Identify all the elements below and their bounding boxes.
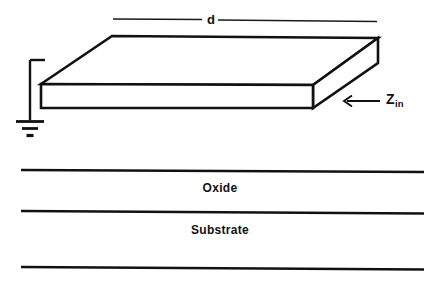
- diagram-canvas: d Zin Oxide Substrate: [0, 0, 440, 283]
- dimension-segment-left: [113, 19, 202, 20]
- impedance-arrow: [344, 96, 380, 107]
- substrate-layer-label: Substrate: [0, 224, 440, 236]
- length-dimension-label: d: [207, 13, 215, 26]
- conductor-slab: [41, 36, 378, 108]
- impedance-subscript: in: [395, 98, 403, 109]
- slab-front-face: [41, 84, 313, 108]
- layer-line-top: [21, 170, 424, 172]
- layer-line-middle: [21, 211, 424, 214]
- dimension-segment-right: [218, 20, 377, 22]
- length-dimension-line: [113, 19, 377, 22]
- layer-line-bottom: [21, 267, 424, 270]
- oxide-layer-label: Oxide: [0, 182, 440, 194]
- diagram-vector-layer: [0, 0, 440, 283]
- impedance-symbol: Z: [386, 91, 395, 107]
- input-impedance-label: Zin: [386, 92, 403, 106]
